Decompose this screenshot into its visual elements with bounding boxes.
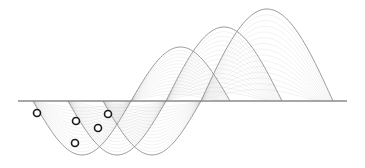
hatch-line <box>201 38 327 101</box>
wave-diagram-canvas <box>0 0 365 168</box>
hatch-line <box>68 101 166 118</box>
circle-marker <box>73 118 80 125</box>
wave-diagram <box>0 0 365 168</box>
circle-marker <box>34 110 41 117</box>
circle-marker <box>105 111 112 118</box>
circle-marker <box>72 140 79 147</box>
circle-marker <box>95 125 102 132</box>
wave-outlines <box>33 9 333 155</box>
